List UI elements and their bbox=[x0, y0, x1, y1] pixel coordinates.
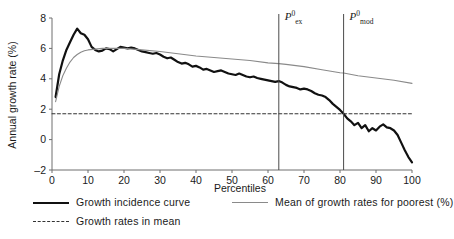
legend-item-growth-rates-in-mean: Growth rates in mean bbox=[33, 215, 181, 227]
x-tick-label-60: 60 bbox=[262, 174, 274, 186]
y-axis-ticks: –202468 bbox=[34, 12, 52, 176]
y-tick-label-8: 8 bbox=[40, 12, 46, 24]
x-tick-label-80: 80 bbox=[334, 174, 346, 186]
y-tick-label--2: –2 bbox=[34, 164, 46, 176]
chart-legend: Growth incidence curve Growth rates in m… bbox=[0, 196, 430, 239]
y-tick-label-0: 0 bbox=[40, 133, 46, 145]
legend-item-mean-of-growth-rates-for-poorest: Mean of growth rates for poorest (%) bbox=[232, 196, 454, 208]
y-axis-label: Annual growth rate (%) bbox=[6, 41, 18, 148]
legend-label-growth-rates-in-mean: Growth rates in mean bbox=[76, 215, 181, 227]
x-tick-label-70: 70 bbox=[298, 174, 310, 186]
x-axis-ticks: 0102030405060708090100 bbox=[49, 170, 421, 186]
x-tick-label-30: 30 bbox=[154, 174, 166, 186]
vline-p-mod-label: P0mod bbox=[349, 9, 374, 26]
x-axis-label: Percentiles bbox=[214, 182, 266, 194]
x-tick-label-0: 0 bbox=[49, 174, 55, 186]
x-tick-label-90: 90 bbox=[370, 174, 382, 186]
vline-p-ex-label: P0ex bbox=[284, 9, 303, 26]
x-tick-label-20: 20 bbox=[118, 174, 130, 186]
y-tick-label-2: 2 bbox=[40, 103, 46, 115]
legend-label-growth-incidence-curve: Growth incidence curve bbox=[76, 196, 190, 208]
x-tick-label-50: 50 bbox=[226, 174, 238, 186]
legend-swatch-solid-black-icon bbox=[33, 197, 69, 207]
annotation-labels: P0exP0mod bbox=[284, 9, 374, 26]
y-tick-label-4: 4 bbox=[40, 72, 46, 84]
legend-swatch-dashed-black-icon bbox=[33, 216, 69, 226]
x-tick-label-100: 100 bbox=[403, 174, 421, 186]
legend-swatch-solid-gray-icon bbox=[232, 197, 268, 207]
data-series-layer bbox=[52, 29, 412, 163]
legend-label-mean-of-growth-rates-for-poorest: Mean of growth rates for poorest (%) bbox=[275, 196, 454, 208]
y-tick-label-6: 6 bbox=[40, 42, 46, 54]
x-tick-label-40: 40 bbox=[190, 174, 202, 186]
x-tick-label-10: 10 bbox=[82, 174, 94, 186]
legend-item-growth-incidence-curve: Growth incidence curve bbox=[33, 196, 190, 208]
